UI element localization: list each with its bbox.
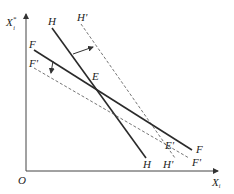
label-f-prime-right: F' xyxy=(191,156,202,168)
line-h-prime xyxy=(81,24,175,158)
y-axis-label: X*i xyxy=(5,15,17,31)
label-h-prime-bottom: H' xyxy=(162,158,174,170)
line-f xyxy=(34,50,192,150)
label-h-bottom: H xyxy=(142,158,152,170)
shift-arrow-h xyxy=(73,47,93,54)
diagram-canvas: X*i Xi O H H H' H' F F F' F' E E' xyxy=(0,0,234,194)
label-f-left: F xyxy=(28,38,36,50)
point-e-label: E xyxy=(91,70,99,82)
line-h xyxy=(52,28,146,158)
origin-label: O xyxy=(18,174,26,186)
label-f-right: F xyxy=(195,143,203,155)
label-h-top: H xyxy=(47,15,57,27)
x-axis-label: Xi xyxy=(211,176,221,189)
label-f-prime-left: F' xyxy=(28,57,39,69)
label-h-prime-top: H' xyxy=(76,11,88,23)
shift-arrow-f xyxy=(51,61,53,73)
point-e-prime-label: E' xyxy=(164,139,175,151)
